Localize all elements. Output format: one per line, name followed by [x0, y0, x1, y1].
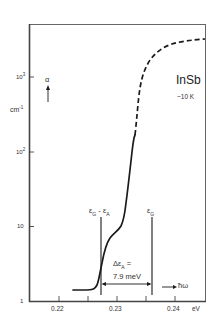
absorption-curve-dashed	[135, 39, 205, 135]
temperature-label: ~10 K	[177, 94, 194, 101]
eg-label: εG	[147, 207, 154, 217]
x-ticks	[59, 296, 175, 301]
delta-ea-label: ΔεA =	[113, 260, 131, 270]
y-direction-arrow	[46, 85, 50, 102]
y-tick-label-1: 1	[20, 298, 23, 304]
y-tick-label-10: 10	[17, 223, 24, 229]
chart-title: InSb	[176, 74, 201, 86]
y-tick-label-100: 102	[16, 148, 25, 155]
x-tick-label-024: 0.24	[167, 306, 180, 313]
eg-minus-ea-label: εG - εA	[89, 207, 110, 217]
y-axis-symbol: α	[45, 76, 49, 84]
delta-ea-value: 7.9 meV	[113, 273, 141, 281]
x-tick-label-023: 0.23	[109, 306, 122, 313]
x-axis-symbol: ħω	[178, 282, 188, 290]
absorption-chart	[0, 0, 219, 325]
x-direction-arrow	[162, 285, 177, 289]
y-axis-unit: cm-1	[10, 106, 23, 113]
y-tick-label-1000: 103	[16, 73, 25, 80]
x-axis-unit: eV	[192, 306, 200, 313]
x-tick-label-022: 0.22	[51, 306, 64, 313]
delta-arrow	[102, 282, 152, 286]
